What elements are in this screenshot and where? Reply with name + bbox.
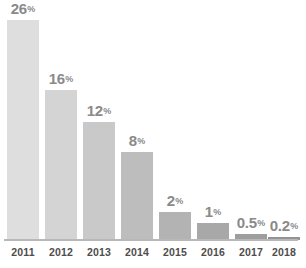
bar-value-2016: 1 [205, 203, 213, 220]
bar-group-2016: 1% [197, 0, 229, 240]
x-axis-tick-2015: 2015 [159, 245, 191, 259]
percent-sign-2015: % [175, 196, 183, 206]
bar-value-2013: 12 [87, 102, 103, 119]
bar-group-2018: 0.2% [268, 0, 300, 240]
bar-group-2014: 8% [121, 0, 153, 240]
x-axis-tick-2014: 2014 [121, 245, 153, 259]
bar-value-2018: 0.2 [270, 217, 290, 234]
x-axis-line [4, 239, 298, 241]
plot-area: 26% 16% 12% 8% 2% [0, 0, 306, 240]
x-axis-tick-2018: 2018 [268, 245, 300, 259]
bar-group-2011: 26% [7, 0, 39, 240]
bar-group-2017: 0.5% [235, 0, 267, 240]
bar-value-label-2012: 16% [45, 71, 77, 87]
bar-value-label-2015: 2% [159, 193, 191, 209]
x-axis-tick-2013: 2013 [83, 245, 115, 259]
bar-value-2011: 26 [11, 0, 27, 17]
bar-2014 [121, 152, 153, 240]
percent-sign-2011: % [27, 4, 35, 14]
bar-value-label-2018: 0.2% [260, 218, 306, 234]
bar-value-2014: 8 [129, 132, 137, 149]
x-axis-tick-2016: 2016 [197, 245, 229, 259]
percent-sign-2012: % [65, 74, 73, 84]
percent-sign-2016: % [213, 207, 221, 217]
bar-2016 [197, 223, 229, 240]
bar-group-2012: 16% [45, 0, 77, 240]
bar-group-2013: 12% [83, 0, 115, 240]
bar-value-label-2011: 26% [7, 1, 39, 17]
bar-value-2012: 16 [49, 70, 65, 87]
x-axis-tick-labels: 2011 2012 2013 2014 2015 2016 2017 2018 [0, 245, 306, 261]
x-axis-tick-2012: 2012 [45, 245, 77, 259]
bar-2015 [159, 212, 191, 240]
x-axis-tick-2017: 2017 [235, 245, 267, 259]
bar-value-2017: 0.5 [237, 214, 257, 231]
bar-value-label-2014: 8% [121, 133, 153, 149]
bar-value-label-2013: 12% [83, 103, 115, 119]
x-axis-tick-2011: 2011 [7, 245, 39, 259]
bar-chart: 26% 16% 12% 8% 2% [0, 0, 306, 268]
bar-2012 [45, 90, 77, 240]
bar-value-2015: 2 [167, 192, 175, 209]
bar-value-label-2016: 1% [197, 204, 229, 220]
bar-2013 [83, 122, 115, 240]
bar-2011 [7, 20, 39, 240]
bar-group-2015: 2% [159, 0, 191, 240]
percent-sign-2013: % [103, 106, 111, 116]
percent-sign-2014: % [137, 136, 145, 146]
percent-sign-2018: % [290, 221, 298, 231]
